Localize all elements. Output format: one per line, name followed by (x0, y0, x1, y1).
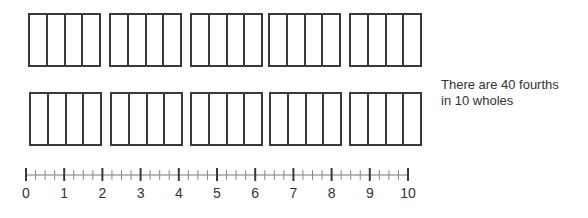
caption: There are 40 fourths in 10 wholes (441, 77, 581, 109)
caption-line-1: There are 40 fourths (441, 77, 581, 93)
tick-label: 1 (60, 185, 68, 201)
tick-label: 0 (22, 185, 30, 201)
tick-label: 6 (251, 185, 259, 201)
tick-label: 4 (175, 185, 183, 201)
tick-label: 2 (99, 185, 107, 201)
tick-label: 8 (328, 185, 336, 201)
number-line: 012345678910 (0, 0, 588, 218)
tick-label: 5 (213, 185, 221, 201)
tick-label: 3 (137, 185, 145, 201)
tick-label: 7 (290, 185, 298, 201)
tick-label: 9 (366, 185, 374, 201)
caption-line-2: in 10 wholes (441, 93, 581, 109)
tick-label: 10 (400, 185, 416, 201)
